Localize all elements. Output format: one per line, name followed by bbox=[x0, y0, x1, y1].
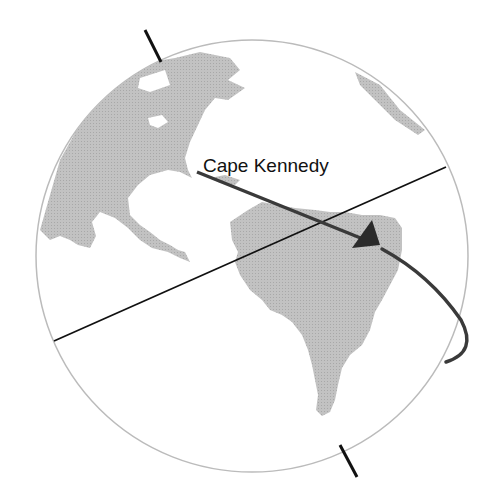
globe-diagram bbox=[0, 0, 502, 502]
axis-north bbox=[145, 30, 161, 62]
cape-kennedy-label: Cape Kennedy bbox=[203, 155, 329, 177]
